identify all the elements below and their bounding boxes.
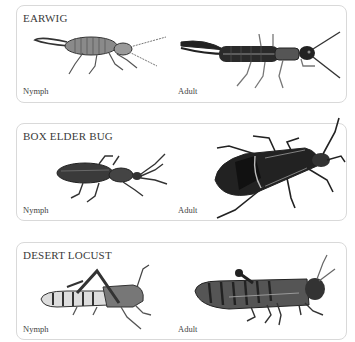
earwig-nymph-illustration — [31, 20, 166, 80]
adult-label: Adult — [178, 324, 197, 334]
desert-locust-nymph-illustration — [37, 259, 157, 329]
desert-locust-adult-illustration — [189, 253, 339, 328]
nymph-label: Nymph — [23, 324, 49, 334]
adult-label: Adult — [178, 86, 197, 96]
nymph-label: Nymph — [23, 205, 49, 215]
panel-box-elder-bug: BOX ELDER BUG Nymph — [16, 123, 347, 221]
panel-title: BOX ELDER BUG — [23, 130, 113, 142]
box-elder-bug-nymph-illustration — [43, 150, 168, 205]
panel-desert-locust: DESERT LOCUST Nymph — [16, 242, 347, 340]
box-elder-bug-adult-illustration — [195, 118, 345, 223]
panel-earwig: EARWIG Nymph — [16, 5, 347, 103]
earwig-adult-illustration — [175, 24, 345, 94]
adult-label: Adult — [178, 205, 197, 215]
nymph-label: Nymph — [23, 86, 49, 96]
